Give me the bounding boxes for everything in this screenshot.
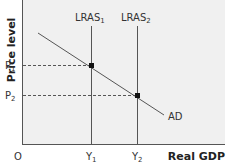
p2-label: P2: [5, 90, 16, 103]
equilibrium-point-1: [89, 63, 94, 68]
y2-label: Y2: [131, 151, 143, 164]
ad-label: AD: [168, 111, 183, 122]
y1-label: Y1: [85, 151, 97, 164]
ad-lras-diagram: Price level LRAS1 LRAS2 AD P1 P2 O: [0, 0, 230, 168]
origin-label: O: [14, 151, 22, 162]
x-axis-title: Real GDP: [168, 150, 225, 163]
equilibrium-point-2: [135, 93, 140, 98]
